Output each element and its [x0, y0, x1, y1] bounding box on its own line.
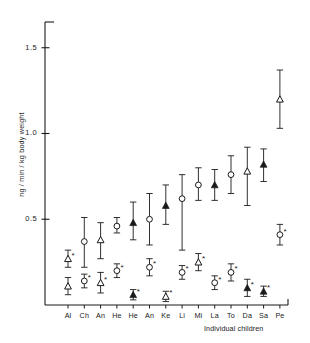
y-axis-label: ng / min / kg body weight [17, 90, 26, 220]
y-axis-tick-label: 0.5 [11, 214, 37, 223]
significance-asterisk: * [283, 229, 286, 235]
marker-open-triangle [162, 293, 169, 299]
significance-asterisk: * [251, 282, 254, 288]
marker-open-circle [179, 270, 185, 276]
marker-open-circle [81, 239, 87, 245]
data-point-group [130, 202, 137, 240]
data-point-group [179, 266, 185, 280]
data-point-group [195, 254, 202, 271]
data-point-group [114, 264, 120, 278]
data-point-group [81, 274, 87, 288]
marker-open-triangle [244, 168, 251, 174]
marker-open-circle [147, 264, 153, 270]
marker-open-circle [179, 196, 185, 202]
data-point-group [277, 224, 283, 245]
marker-open-triangle [97, 236, 104, 242]
data-point-group [81, 218, 87, 268]
x-axis-tick-label: Pe [269, 311, 291, 320]
marker-open-circle [114, 223, 120, 229]
significance-asterisk: * [218, 277, 221, 283]
data-point-group [211, 170, 218, 201]
data-point-group [146, 259, 152, 276]
data-point-group [97, 272, 104, 293]
data-point-group [130, 290, 137, 300]
significance-asterisk: * [153, 261, 156, 267]
marker-open-triangle [65, 283, 72, 289]
marker-open-circle [81, 278, 87, 284]
data-point-group [260, 286, 267, 296]
marker-open-circle [212, 280, 218, 286]
marker-open-circle [196, 182, 202, 188]
data-point-group [195, 168, 201, 201]
significance-asterisk: * [72, 253, 75, 259]
data-point-group [277, 70, 284, 128]
significance-asterisk: * [202, 256, 205, 262]
significance-asterisk: * [267, 285, 270, 291]
marker-open-triangle [97, 279, 104, 285]
significance-asterisk: * [88, 275, 91, 281]
data-point-group [162, 185, 169, 224]
y-axis-tick-label: 1.5 [11, 43, 37, 52]
data-point-group [228, 156, 234, 194]
marker-filled-triangle [244, 284, 251, 290]
marker-filled-triangle [260, 161, 267, 167]
marker-open-triangle [65, 255, 72, 261]
significance-asterisk: * [137, 289, 140, 295]
x-axis-title: Individual children [204, 324, 263, 333]
data-point-group [65, 278, 72, 295]
chart-figure: ng / min / kg body weight 0.51.01.5AlChA… [0, 0, 310, 343]
data-point-group [114, 218, 120, 233]
significance-asterisk: * [186, 266, 189, 272]
marker-open-circle [147, 216, 153, 222]
data-point-group [146, 194, 152, 245]
marker-open-circle [228, 270, 234, 276]
significance-asterisk: * [104, 277, 107, 283]
data-point-group [228, 264, 234, 281]
scatter-plot-svg [0, 0, 310, 343]
marker-open-triangle [277, 96, 284, 102]
data-point-group [212, 276, 218, 290]
data-point-group [65, 250, 72, 267]
marker-open-circle [228, 172, 234, 178]
significance-asterisk: * [120, 265, 123, 271]
significance-asterisk: * [235, 266, 238, 272]
marker-open-triangle [195, 259, 202, 265]
marker-filled-triangle [162, 202, 169, 208]
data-point-group [244, 279, 251, 296]
data-point-group [179, 175, 185, 250]
marker-filled-triangle [211, 182, 218, 188]
marker-filled-triangle [130, 291, 137, 297]
marker-open-circle [114, 268, 120, 274]
marker-open-circle [277, 232, 283, 238]
data-point-group [162, 291, 169, 301]
marker-filled-triangle [130, 219, 137, 225]
y-axis-tick-label: 1.0 [11, 128, 37, 137]
significance-asterisk: * [169, 290, 172, 296]
marker-filled-triangle [260, 288, 267, 294]
data-point-group [260, 149, 267, 182]
data-point-group [244, 147, 251, 205]
data-point-group [97, 223, 104, 259]
